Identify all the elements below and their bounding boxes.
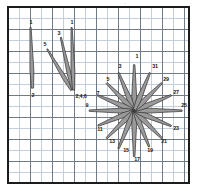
- petal-label-15: 15: [123, 148, 129, 153]
- petal-label-3: 3: [119, 64, 122, 69]
- petal-label-2: 2: [32, 93, 35, 98]
- petal-label-13: 13: [109, 139, 115, 144]
- petal-label-2-4-6: 2,4,6: [76, 94, 87, 99]
- petal-label-1: 1: [136, 54, 139, 59]
- petal-left-1: [30, 28, 34, 89]
- petal-label-27: 27: [173, 90, 179, 95]
- petal-label-21: 21: [161, 139, 167, 144]
- petal-label-1: 1: [71, 20, 74, 25]
- petal-left-4: [71, 28, 75, 91]
- petal-label-23: 23: [173, 126, 179, 131]
- petal-label-11: 11: [97, 127, 102, 132]
- petal-label-9: 9: [86, 103, 89, 108]
- petal-label-7: 7: [97, 91, 100, 96]
- figure-root: · 125312,4,6133152972792511231321151917: [0, 0, 197, 191]
- petal-label-1: 1: [30, 20, 33, 25]
- petal-label-3: 3: [58, 31, 61, 36]
- petal-label-5: 5: [107, 77, 110, 82]
- petal-label-31: 31: [152, 64, 158, 69]
- top-mark: ·: [124, 1, 127, 5]
- petal-label-25: 25: [181, 103, 187, 108]
- petal-label-17: 17: [134, 157, 140, 162]
- graph-paper-panel: 125312,4,6133152972792511231321151917: [7, 6, 190, 184]
- starburst-centre: [133, 109, 136, 112]
- petal-label-5: 5: [44, 42, 47, 47]
- petal-label-29: 29: [163, 77, 169, 82]
- petal-label-19: 19: [147, 148, 153, 153]
